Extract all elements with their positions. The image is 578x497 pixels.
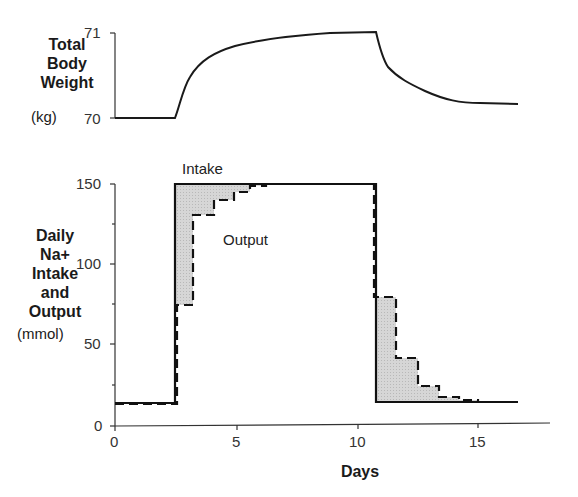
chart-canvas xyxy=(0,0,578,497)
body-weight-curve xyxy=(115,32,518,118)
intake-line xyxy=(115,184,518,403)
weight-axis xyxy=(110,33,115,118)
retention-shading xyxy=(175,184,376,305)
